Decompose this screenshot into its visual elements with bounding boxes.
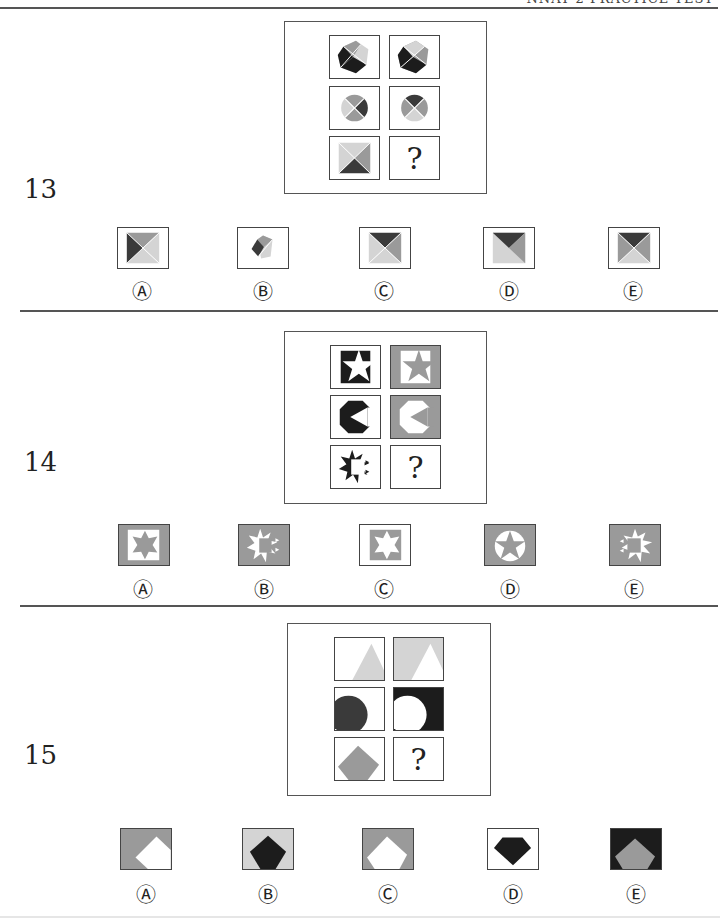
- diamond-icon: [335, 738, 384, 780]
- diamond-icon: [121, 829, 171, 869]
- star-icon: [391, 346, 440, 388]
- option-b[interactable]: [242, 828, 294, 870]
- option-d-label: Ⓓ: [497, 280, 521, 304]
- option-e[interactable]: [610, 828, 662, 870]
- matrix-cell-white-circle: [393, 687, 444, 731]
- triangle-icon: [335, 638, 384, 680]
- option-b-label: Ⓑ: [251, 280, 275, 304]
- option-c[interactable]: [359, 227, 411, 269]
- option-a-label: Ⓐ: [130, 280, 154, 304]
- option-e[interactable]: [609, 524, 661, 566]
- square-halved-icon: [484, 228, 534, 268]
- question-mark: ?: [391, 446, 440, 488]
- matrix-cell-hexagon-rotated: [389, 35, 440, 79]
- option-d-label: Ⓓ: [501, 883, 525, 907]
- header-text: NNAT 2 PRACTICE TEST: [526, 0, 714, 6]
- square-quartered-icon: [118, 228, 168, 268]
- matrix-cell-black-octagon: [330, 395, 381, 439]
- matrix-cell-black-burst: [330, 445, 381, 489]
- matrix-cell-hexagon: [329, 35, 380, 79]
- star-icon: [360, 525, 410, 565]
- matrix-cell-circle: [329, 86, 380, 130]
- diamond-icon: [363, 829, 413, 869]
- matrix-cell-gray-star: [390, 345, 441, 389]
- option-a-label: Ⓐ: [131, 578, 155, 602]
- matrix-cell-white-triangle: [393, 637, 444, 681]
- burst-icon: [239, 525, 289, 565]
- octagon-icon: [391, 396, 440, 438]
- option-e[interactable]: [608, 227, 660, 269]
- gem-icon: [488, 829, 538, 869]
- star-icon: [331, 346, 380, 388]
- option-b-label: Ⓑ: [252, 578, 276, 602]
- option-e-label: Ⓔ: [624, 883, 648, 907]
- option-a[interactable]: [118, 524, 170, 566]
- square-quartered-icon: [330, 137, 379, 179]
- option-d[interactable]: [484, 524, 536, 566]
- option-b[interactable]: [238, 524, 290, 566]
- question-matrix-frame: [287, 623, 491, 796]
- diamond-icon: [243, 829, 293, 869]
- option-e-label: Ⓔ: [621, 280, 645, 304]
- option-c[interactable]: [362, 828, 414, 870]
- circle-quartered-icon: [330, 87, 379, 129]
- option-c-label: Ⓒ: [372, 280, 396, 304]
- option-e-label: Ⓔ: [622, 578, 646, 602]
- star-icon: [119, 525, 169, 565]
- burst-icon: [331, 446, 380, 488]
- question-mark: ?: [394, 738, 443, 780]
- burst-icon: [610, 525, 660, 565]
- matrix-cell-question: ?: [390, 445, 441, 489]
- matrix-cell-question: ?: [389, 136, 440, 180]
- question-matrix-frame: [284, 21, 487, 194]
- triangle-icon: [394, 638, 443, 680]
- option-b[interactable]: [237, 227, 289, 269]
- question-number: 14: [24, 447, 57, 477]
- section-divider: [20, 310, 718, 312]
- question-mark: ?: [390, 137, 439, 179]
- pentagon-quartered-icon: [238, 228, 288, 268]
- option-d-label: Ⓓ: [498, 578, 522, 602]
- matrix-cell-white-star: [330, 345, 381, 389]
- option-d[interactable]: [483, 227, 535, 269]
- bottom-edge: [0, 916, 720, 918]
- matrix-cell-square: [329, 136, 380, 180]
- matrix-cell-white-octagon: [390, 395, 441, 439]
- matrix-cell-gray-diamond: [334, 737, 385, 781]
- option-b-label: Ⓑ: [256, 883, 280, 907]
- matrix-cell-circle-rotated: [389, 86, 440, 130]
- circle-icon: [335, 688, 384, 730]
- option-c[interactable]: [359, 524, 411, 566]
- section-divider: [20, 605, 718, 607]
- question-number: 15: [24, 740, 57, 770]
- circle-quartered-icon: [390, 87, 439, 129]
- matrix-cell-dark-circle: [334, 687, 385, 731]
- square-quartered-icon: [360, 228, 410, 268]
- option-a[interactable]: [117, 227, 169, 269]
- hexagon-quartered-icon: [330, 36, 379, 78]
- question-matrix-frame: [284, 331, 487, 504]
- square-quartered-icon: [609, 228, 659, 268]
- option-d[interactable]: [487, 828, 539, 870]
- option-c-label: Ⓒ: [376, 883, 400, 907]
- matrix-cell-question: ?: [393, 737, 444, 781]
- octagon-icon: [331, 396, 380, 438]
- header-rule: [0, 7, 718, 9]
- matrix-cell-light-triangle: [334, 637, 385, 681]
- question-number: 13: [24, 174, 57, 204]
- option-a-label: Ⓐ: [134, 883, 158, 907]
- option-c-label: Ⓒ: [372, 578, 396, 602]
- diamond-icon: [611, 829, 661, 869]
- hexagon-quartered-icon: [390, 36, 439, 78]
- star-in-circle-icon: [485, 525, 535, 565]
- circle-icon: [394, 688, 443, 730]
- option-a[interactable]: [120, 828, 172, 870]
